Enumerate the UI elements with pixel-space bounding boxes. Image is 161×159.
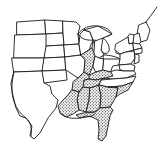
state-wyoming-colorado	[14, 34, 46, 58]
state-nebraska	[44, 45, 65, 58]
state-indiana	[93, 56, 104, 72]
state-minnesota	[63, 21, 80, 45]
state-florida	[76, 107, 113, 141]
state-oklahoma	[42, 70, 67, 83]
us-region-map-figure: Map of the eastern United States	[0, 0, 161, 159]
state-new-jersey	[134, 54, 139, 64]
state-michigan-lower	[94, 38, 104, 58]
us-map-svg	[0, 0, 161, 159]
state-delaware-maryland	[118, 64, 135, 71]
state-montana	[17, 20, 46, 35]
atlantic-coast-line	[146, 7, 157, 22]
state-pennsylvania	[119, 51, 135, 65]
state-kansas	[42, 57, 66, 71]
state-new-mexico	[12, 58, 44, 72]
state-georgia	[99, 85, 118, 108]
state-north-dakota	[45, 20, 63, 34]
state-south-dakota	[46, 33, 64, 46]
northeast-states	[115, 22, 150, 71]
state-louisiana	[58, 90, 79, 117]
